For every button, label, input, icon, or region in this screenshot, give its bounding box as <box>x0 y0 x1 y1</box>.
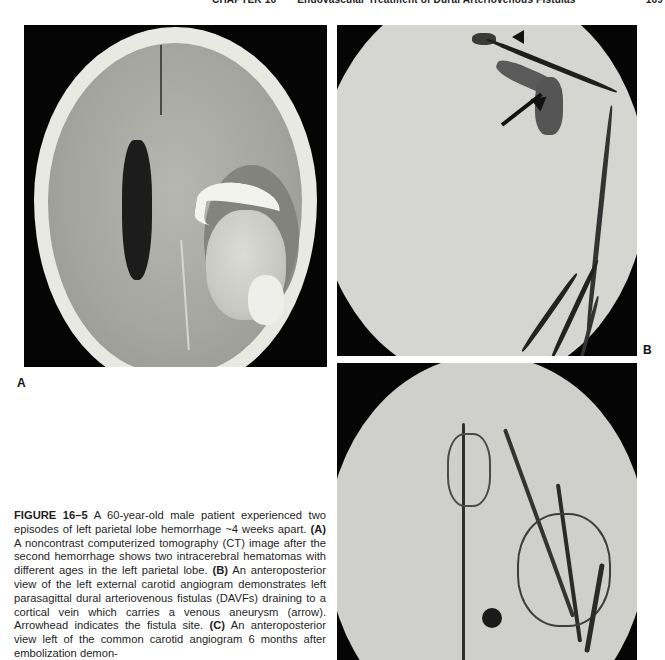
lateral-ventricle <box>122 140 152 280</box>
panel-label-a: A <box>17 376 26 390</box>
chapter-title: Endovascular Treatment of Dural Arteriov… <box>297 0 575 5</box>
running-head: CHAPTER 16 Endovascular Treatment of Dur… <box>212 0 665 6</box>
page-number: 169 <box>646 0 663 5</box>
chapter-label: CHAPTER 16 <box>212 0 276 5</box>
falx-anterior <box>160 45 162 115</box>
figure-caption: FIGURE 16–5 A 60-year-old male patient e… <box>14 509 326 660</box>
panel-label-b: B <box>643 343 652 357</box>
aca-branches <box>447 433 491 507</box>
figure-panel-a-ct-image <box>24 25 327 367</box>
arrowhead-fistula-marker <box>512 30 524 44</box>
figure-panel-b-angiogram <box>337 25 637 356</box>
carotid-siphon <box>482 608 502 628</box>
caption-label-a: (A) <box>310 523 326 535</box>
figure-panel-c-angiogram <box>337 363 637 660</box>
caption-label-b: (B) <box>212 564 228 576</box>
caption-label-c: (C) <box>209 619 225 631</box>
hematoma-acute-lower <box>248 275 284 325</box>
mca-territory <box>517 513 611 627</box>
figure-number: FIGURE 16–5 <box>14 509 88 521</box>
